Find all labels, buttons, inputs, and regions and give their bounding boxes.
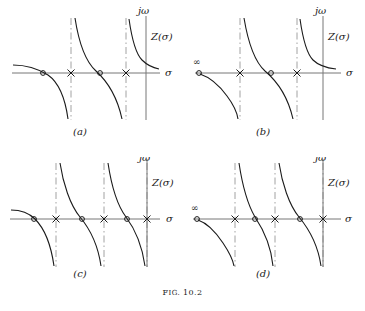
curve-branch	[300, 19, 336, 69]
sigma-axis-label: σ	[165, 67, 173, 78]
panel-b-plot: ∞ jω Z(σ) σ	[183, 2, 365, 127]
curve-branch	[60, 163, 101, 266]
panel-label-b: (b)	[243, 126, 283, 137]
curve-branch	[200, 74, 238, 119]
panel-label-a: (a)	[60, 126, 100, 137]
sigma-axis-label: σ	[166, 213, 174, 224]
jomega-axis-label: jω	[313, 157, 326, 163]
function-label: Z(σ)	[327, 177, 350, 188]
curve-branch	[239, 163, 273, 266]
sigma-axis-label: σ	[346, 67, 354, 78]
panel-label-d: (d)	[243, 268, 283, 279]
jomega-axis-label: jω	[137, 157, 150, 163]
curve-branch	[129, 19, 159, 69]
figure-10-2: jω Z(σ) σ (a) ∞ jω Z(σ) σ (b)	[0, 0, 365, 311]
function-label: Z(σ)	[327, 31, 350, 42]
panel-d-plot: ∞ jω Z(σ) σ	[183, 157, 365, 282]
curve-branch	[198, 220, 234, 266]
infinity-label: ∞	[193, 57, 201, 67]
curve-branch	[75, 18, 122, 119]
jomega-axis-label: jω	[313, 5, 326, 16]
jomega-axis-label: jω	[136, 5, 149, 16]
function-label: Z(σ)	[151, 177, 174, 188]
curve-branch	[108, 163, 145, 266]
curve-branch	[279, 163, 321, 266]
panel-label-c: (c)	[60, 268, 100, 279]
panel-c-plot: jω Z(σ) σ	[0, 157, 183, 282]
panel-a-plot: jω Z(σ) σ	[0, 2, 183, 127]
curve-branch	[244, 18, 293, 119]
curve-branch	[11, 210, 54, 266]
function-label: Z(σ)	[150, 31, 173, 42]
caption-number: 10.2	[183, 288, 202, 297]
infinity-label: ∞	[191, 203, 199, 213]
figure-caption: FIG. 10.2	[0, 288, 365, 297]
sigma-axis-label: σ	[345, 213, 353, 224]
caption-smallcaps: IG.	[169, 289, 181, 297]
